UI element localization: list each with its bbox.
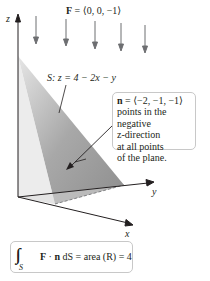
y-axis-label: y: [152, 186, 156, 197]
integral-subscript: S: [19, 263, 23, 272]
surface-equation: : z = 4 − 2x − y: [52, 72, 116, 83]
normal-callout: n = ⟨−2, −1, −1⟩ points in the negative …: [112, 92, 196, 150]
callout-line: points in the: [117, 106, 195, 117]
arrow-down-icon: [64, 39, 69, 46]
arrow-down-icon: [34, 37, 39, 44]
callout-line: of the plane.: [117, 152, 195, 163]
vector-field-arrows: [34, 16, 148, 53]
surface-label-leader: [59, 85, 66, 113]
field-value: = ⟨0, 0, −1⟩: [72, 5, 121, 16]
arrow-down-icon: [143, 46, 148, 53]
x-axis-label: x: [125, 228, 129, 239]
callout-line: at all points: [117, 141, 195, 152]
flux-result-box: ∫∫ S F · n dS = area (R) = 4: [10, 241, 133, 273]
arrow-down-icon: [93, 42, 98, 49]
z-axis-label: z: [6, 13, 10, 24]
x-axis: [18, 197, 128, 223]
z-axis-arrowhead-icon: [16, 14, 21, 22]
callout-line: z-direction: [117, 129, 195, 140]
flux-value: dS = area (R) = 4: [60, 251, 132, 262]
x-axis-arrowhead-icon: [125, 220, 133, 227]
field-label: F = ⟨0, 0, −1⟩: [66, 5, 121, 16]
arrow-down-icon: [119, 44, 124, 51]
flux-expression: F · n dS = area (R) = 4: [40, 251, 132, 262]
callout-line: negative: [117, 118, 195, 129]
normal-value: = ⟨−2, −1, −1⟩: [123, 95, 183, 106]
normal-equation: n = ⟨−2, −1, −1⟩: [117, 95, 195, 106]
surface-label: S: z = 4 − 2x − y: [47, 72, 116, 83]
